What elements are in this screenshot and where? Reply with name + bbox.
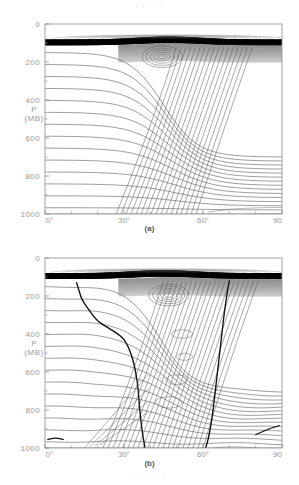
y-axis-title-line1: P <box>31 105 36 114</box>
y-axis-tick-label: 1000 <box>21 210 41 219</box>
panel-a-caption: (a) <box>0 224 299 233</box>
cross-section-plot-a: 02004006008001000P(MB)0°30°60°90 <box>0 14 299 240</box>
y-axis-title-line2: (MB) <box>24 348 43 357</box>
cross-section-panel-b: 02004006008001000P(MB)0°30°60°90 <box>0 248 299 473</box>
page-bottom-text-fragment: · · · · · · <box>0 471 299 485</box>
page-top-text-fragment: · · · · · <box>0 0 299 14</box>
y-axis-title-line2: (MB) <box>24 114 43 123</box>
y-axis-tick-label: 800 <box>25 172 40 181</box>
panel-b-caption: (b) <box>0 459 299 468</box>
y-axis-tick-label: 600 <box>25 368 40 377</box>
contour-group <box>45 35 285 214</box>
y-axis-tick-label: 0 <box>35 20 40 29</box>
y-axis-tick-label: 1000 <box>21 444 41 453</box>
y-axis-tick-label: 600 <box>25 134 40 143</box>
x-axis-tick-label: 90 <box>273 450 282 459</box>
y-axis-tick-label: 400 <box>25 330 40 339</box>
y-axis-title-line1: P <box>31 339 36 348</box>
x-axis-tick-label: 30° <box>118 450 130 459</box>
contour-group <box>45 269 282 448</box>
x-axis-tick-label: 60° <box>197 450 209 459</box>
y-axis-tick-label: 400 <box>25 96 40 105</box>
y-axis-tick-label: 200 <box>25 292 40 301</box>
y-axis-tick-label: 200 <box>25 58 40 67</box>
x-axis-tick-label: 0° <box>46 450 54 459</box>
y-axis-tick-label: 0 <box>35 254 40 263</box>
cross-section-panel-a: 02004006008001000P(MB)0°30°60°90 <box>0 14 299 240</box>
cross-section-plot-b: 02004006008001000P(MB)0°30°60°90 <box>0 248 299 474</box>
y-axis-tick-label: 800 <box>25 406 40 415</box>
